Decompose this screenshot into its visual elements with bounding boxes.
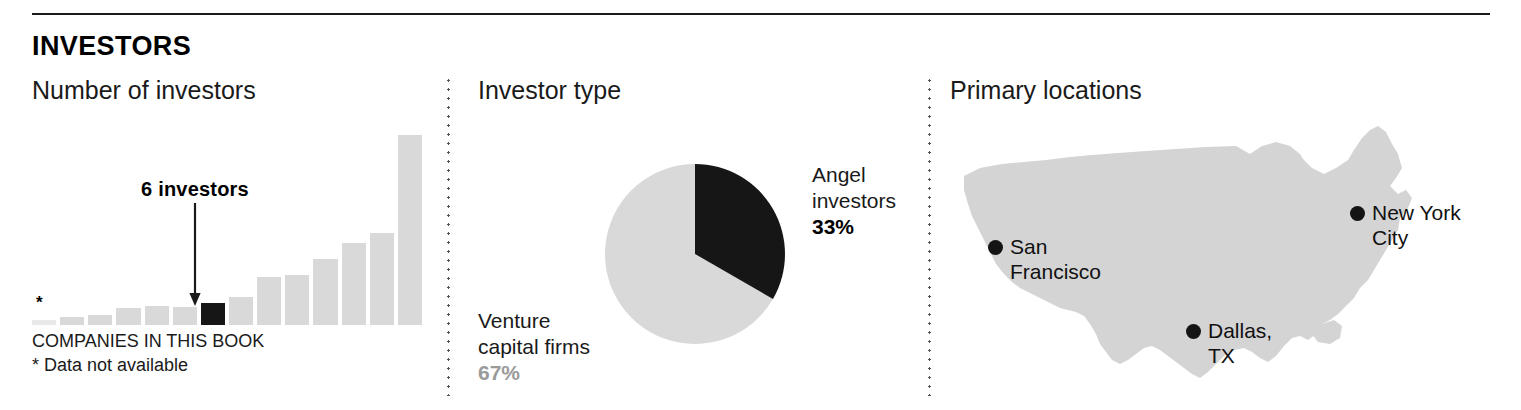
pie-label-angel-investors: Angel investors 33%: [812, 162, 896, 240]
pie-label-venture-capital: Venture capital firms 67%: [478, 308, 590, 386]
pie-panel-title: Investor type: [478, 75, 621, 105]
bar-caption-footnote: * Data not available: [32, 353, 264, 377]
bar-item: [313, 259, 337, 325]
infographic-page: INVESTORS Number of investors * 6 invest…: [0, 0, 1521, 410]
bar-item: [370, 233, 394, 325]
map-label-dal-line2: TX: [1208, 344, 1235, 367]
map-panel-title: Primary locations: [950, 75, 1142, 105]
bar-chart: *: [32, 120, 422, 325]
bar-caption: COMPANIES IN THIS BOOK * Data not availa…: [32, 329, 264, 377]
pie-value-venture-capital: 67%: [478, 360, 590, 386]
map-dot-new-york-city[interactable]: [1350, 206, 1365, 221]
pie-chart-svg: [604, 163, 786, 345]
map-label-dallas: Dallas, TX: [1208, 318, 1272, 368]
panel-divider-2: [928, 76, 931, 396]
map-label-new-york-city: New York City: [1372, 200, 1461, 250]
bar-item: [32, 320, 56, 325]
map-label-dal-line1: Dallas,: [1208, 319, 1272, 342]
pie-value-angel: 33%: [812, 214, 896, 240]
bar-callout-arrow-icon: [188, 203, 202, 307]
bar-item: [116, 308, 140, 325]
map-label-nyc-line2: City: [1372, 226, 1408, 249]
bar-highlighted: [201, 303, 225, 325]
bar-caption-main: COMPANIES IN THIS BOOK: [32, 331, 264, 351]
bar-item: [60, 317, 84, 325]
pie-label-vc-line1: Venture: [478, 309, 550, 332]
map-label-nyc-line1: New York: [1372, 201, 1461, 224]
map-dot-dallas[interactable]: [1186, 324, 1201, 339]
pie-label-angel-line2: investors: [812, 189, 896, 212]
bar-item: [88, 315, 112, 325]
bar-item: [257, 277, 281, 325]
bar-item: [229, 297, 253, 325]
no-data-asterisk: *: [36, 296, 43, 310]
panel-divider-1: [447, 76, 450, 396]
bar-item: [145, 306, 169, 325]
map-label-sf-line1: San: [1010, 235, 1047, 258]
bar-series: [32, 120, 422, 325]
bar-panel-title: Number of investors: [32, 75, 256, 105]
pie-label-vc-line2: capital firms: [478, 335, 590, 358]
top-divider-rule: [32, 13, 1490, 15]
bar-item: [398, 135, 422, 325]
bar-callout-label: 6 investors: [122, 178, 268, 201]
pie-chart: [604, 163, 786, 345]
bar-item: [342, 243, 366, 325]
map-label-san-francisco: San Francisco: [1010, 234, 1101, 284]
page-title: INVESTORS: [32, 30, 191, 62]
bar-item: [285, 275, 309, 325]
map-label-sf-line2: Francisco: [1010, 260, 1101, 283]
pie-label-angel-line1: Angel: [812, 163, 866, 186]
map-dot-san-francisco[interactable]: [988, 240, 1003, 255]
bar-item: [173, 307, 197, 325]
